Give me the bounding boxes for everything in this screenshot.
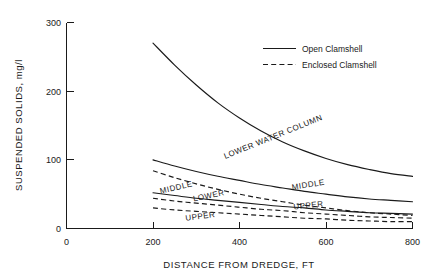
y-tick-label-0: 0 [56,224,61,234]
series-line [153,171,413,216]
y-tick-marks [67,23,74,229]
y-tick-labels: 300 200 100 0 [46,18,61,234]
x-tick-labels: 0 200 400 600 800 [64,237,420,247]
curve-label: LOWER WATER COLUMN [223,113,324,161]
x-tick-label-200: 200 [145,237,160,247]
legend-label-enclosed-clamshell: Enclosed Clamshell [302,60,377,70]
y-axis-title: SUSPENDED SOLIDS, mg/l [13,59,24,191]
curve-annotations: LOWER WATER COLUMNMIDDLEUPPERMIDDLELOWER… [159,113,325,223]
x-tick-marks [67,222,413,229]
x-tick-label-600: 600 [318,237,333,247]
curve-label: MIDDLE [291,178,325,192]
y-tick-label-200: 200 [46,87,61,97]
y-tick-label-100: 100 [46,155,61,165]
x-axis-title: DISTANCE FROM DREDGE, FT [163,259,314,270]
chart-figure: 300 200 100 0 0 200 400 600 800 DISTANCE… [0,0,431,280]
curve-label: UPPER [185,210,216,223]
suspended-solids-line-chart: 300 200 100 0 0 200 400 600 800 DISTANCE… [0,0,431,280]
legend: Open Clamshell Enclosed Clamshell [263,44,377,70]
legend-label-open-clamshell: Open Clamshell [302,44,363,54]
x-tick-label-800: 800 [405,237,420,247]
curve-label: LOWER [192,188,225,203]
curve-label: MIDDLE [159,179,193,195]
x-tick-label-0: 0 [64,237,69,247]
y-tick-label-300: 300 [46,18,61,28]
x-tick-label-400: 400 [232,237,247,247]
